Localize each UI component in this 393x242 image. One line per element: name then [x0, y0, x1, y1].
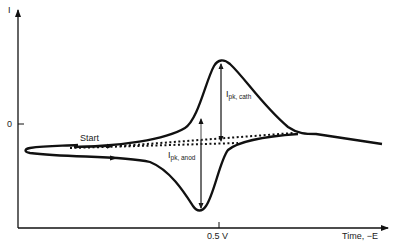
cathodic-peak-label-sub: pk, cath	[229, 93, 252, 100]
zero-label: 0	[7, 120, 12, 129]
x-axis	[18, 222, 388, 228]
x-axis-label: Time, −E	[342, 232, 378, 241]
forward-scan-curve	[74, 60, 382, 147]
anodic-peak-label: Ipk, anod	[168, 151, 195, 162]
x-tick-label: 0.5 V	[207, 232, 228, 241]
y-axis-label: I	[8, 6, 11, 15]
start-label: Start	[80, 134, 99, 143]
voltammogram-plot	[0, 0, 393, 242]
cathodic-peak-label: Ipk, cath	[226, 90, 251, 101]
anodic-peak-label-sub: pk, anod	[171, 154, 196, 161]
y-axis	[18, 10, 24, 228]
